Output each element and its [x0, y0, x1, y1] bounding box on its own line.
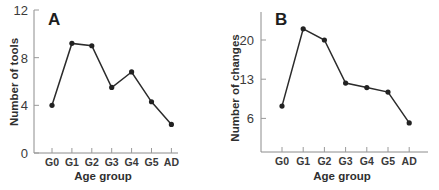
x-tick-label: G1	[65, 156, 79, 168]
data-point-marker	[279, 103, 284, 108]
data-point-marker	[129, 69, 134, 74]
x-tick-label: G3	[105, 156, 119, 168]
data-point-marker	[301, 26, 306, 31]
panel-label-b: B	[275, 10, 287, 29]
x-tick-label: G4	[360, 155, 374, 167]
data-point-marker	[149, 99, 154, 104]
data-point-marker	[343, 81, 348, 86]
y-tick-label: 20	[240, 33, 254, 48]
chart-panel-b: 61320G0G1G2G3G4G5AD B Age group Number o…	[229, 10, 428, 182]
figure: 04812G0G1G2G3G4G5AD A Age group Number o…	[0, 0, 439, 190]
data-point-marker	[407, 120, 412, 125]
y-tick-label: 6	[247, 111, 254, 126]
x-axis-title-a: Age group	[74, 170, 132, 182]
y-tick-label: 8	[21, 51, 28, 66]
chart-panel-a: 04812G0G1G2G3G4G5AD A Age group Number o…	[8, 3, 179, 182]
data-point-marker	[364, 85, 369, 90]
axes-b: 61320G0G1G2G3G4G5AD	[240, 12, 428, 167]
data-point-marker	[109, 85, 114, 90]
data-point-marker	[385, 89, 390, 94]
y-tick-label: 13	[240, 72, 254, 87]
data-line	[52, 43, 171, 124]
data-point-marker	[49, 103, 54, 108]
data-point-marker	[89, 43, 94, 48]
x-tick-label: G0	[45, 156, 59, 168]
x-tick-label: G4	[125, 156, 139, 168]
data-line	[282, 29, 409, 123]
y-tick-label: 4	[21, 98, 28, 113]
x-tick-label: G1	[296, 155, 310, 167]
x-tick-label: G5	[144, 156, 158, 168]
series-b	[279, 26, 411, 125]
y-axis-title-a: Number of tools	[8, 38, 20, 126]
x-tick-label: G2	[85, 156, 99, 168]
y-axis-title-b: Number of changes	[229, 34, 241, 141]
data-point-marker	[69, 41, 74, 46]
x-tick-label: G3	[339, 155, 353, 167]
x-axis-title-b: Age group	[313, 170, 371, 182]
data-point-marker	[169, 122, 174, 127]
x-tick-label: AD	[164, 156, 180, 168]
x-tick-label: G0	[275, 155, 289, 167]
y-tick-label: 0	[21, 146, 28, 161]
data-point-marker	[322, 37, 327, 42]
x-tick-label: G2	[317, 155, 331, 167]
x-tick-label: G5	[381, 155, 395, 167]
x-tick-label: AD	[402, 155, 418, 167]
y-tick-label: 12	[14, 3, 28, 18]
axes-a: 04812G0G1G2G3G4G5AD	[14, 3, 180, 168]
series-a	[49, 41, 174, 127]
panel-label-a: A	[48, 10, 60, 29]
